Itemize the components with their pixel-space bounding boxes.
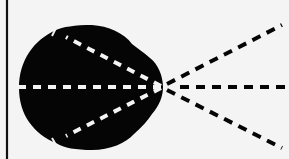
outer-ray-upper bbox=[167, 25, 282, 84]
outer-rays bbox=[167, 25, 289, 148]
outer-ray-lower bbox=[167, 90, 282, 148]
radiation-pattern-diagram bbox=[0, 0, 289, 159]
